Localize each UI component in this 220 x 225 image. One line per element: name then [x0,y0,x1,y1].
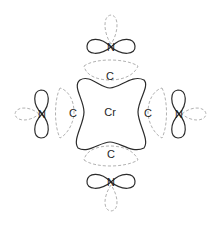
c-label-right: C [144,107,152,119]
n-label-top: N [107,41,115,53]
c-label-top: C [106,70,114,82]
c-label-left: C [69,107,77,119]
c-label-bottom: C [107,148,115,160]
n-label-bottom: N [107,176,115,188]
n-label-right: N [175,108,183,120]
orbital-diagram: Cr C C C C N N N N [0,0,220,225]
cr-label: Cr [104,106,116,118]
n-label-left: N [38,108,46,120]
